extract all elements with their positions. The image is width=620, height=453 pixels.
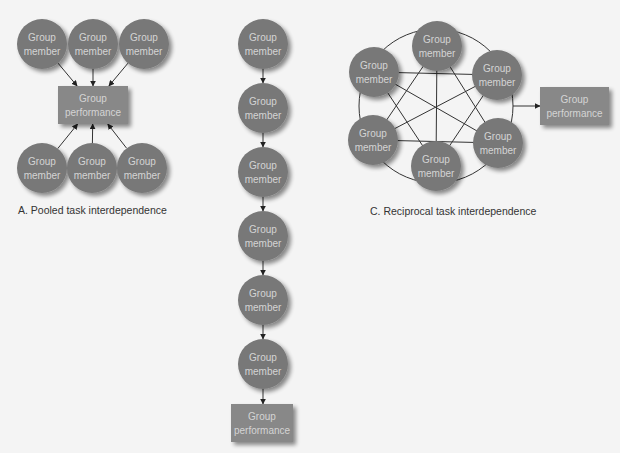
member-label-line2: member [245, 366, 282, 377]
pooled-group-performance-box: Groupperformance [58, 86, 128, 124]
member-label-line1: Group [28, 156, 56, 167]
member-label-line1: Group [249, 288, 277, 299]
member-label-line2: member [418, 168, 455, 179]
member-label-line1: Group [360, 60, 388, 71]
member-label-line1: Group [483, 63, 511, 74]
member-label-line2: member [419, 48, 456, 59]
member-label-line1: Group [28, 32, 56, 43]
svg-text:Group: Group [248, 411, 276, 422]
pooled-arrow [108, 124, 127, 148]
member-label-line2: member [245, 110, 282, 121]
reciprocal-member-node: Groupmember [348, 115, 398, 165]
reciprocal-member-node: Groupmember [349, 47, 399, 97]
pooled-member-node: Groupmember [17, 19, 67, 69]
reciprocal-member-node: Groupmember [412, 21, 462, 71]
pooled-caption: A. Pooled task interdependence [18, 204, 167, 216]
pooled-arrow [58, 63, 77, 86]
member-label-line2: member [245, 302, 282, 313]
member-label-line1: Group [249, 96, 277, 107]
member-label-line1: Group [249, 160, 277, 171]
member-label-line2: member [126, 46, 163, 57]
sequential-group-performance-box: Groupperformance [231, 404, 293, 442]
sequential-member-node: Groupmember [238, 83, 288, 133]
member-label-line1: Group [484, 131, 512, 142]
member-label-line1: Group [359, 128, 387, 139]
member-label-line2: member [355, 142, 392, 153]
reciprocal-member-node: Groupmember [411, 141, 461, 191]
pooled-member-node: Groupmember [117, 143, 167, 193]
sequential-member-node: Groupmember [238, 211, 288, 261]
pooled-member-node: Groupmember [67, 143, 117, 193]
sequential-member-node: Groupmember [238, 147, 288, 197]
sequential-member-node: Groupmember [238, 275, 288, 325]
svg-text:performance: performance [65, 107, 122, 118]
pooled-member-node: Groupmember [68, 19, 118, 69]
member-label-line1: Group [422, 154, 450, 165]
pooled-member-node: Groupmember [17, 143, 67, 193]
reciprocal-group-performance-box: Groupperformance [540, 87, 609, 125]
svg-text:Group: Group [79, 93, 107, 104]
member-label-line2: member [74, 170, 111, 181]
member-label-line1: Group [79, 32, 107, 43]
svg-text:Group: Group [561, 94, 589, 105]
diagram-nodes: GroupmemberGroupmemberGroupmemberGroupme… [17, 19, 609, 442]
member-label-line1: Group [249, 352, 277, 363]
member-label-line2: member [245, 238, 282, 249]
svg-text:performance: performance [234, 425, 291, 436]
member-label-line1: Group [130, 32, 158, 43]
reciprocal-member-node: Groupmember [472, 50, 522, 100]
member-label-line2: member [245, 174, 282, 185]
pooled-member-node: Groupmember [119, 19, 169, 69]
member-label-line2: member [356, 74, 393, 85]
member-label-line1: Group [249, 224, 277, 235]
member-label-line1: Group [78, 156, 106, 167]
task-interdependence-figure: GroupmemberGroupmemberGroupmemberGroupme… [0, 0, 620, 453]
pooled-arrow [58, 124, 78, 149]
member-label-line2: member [124, 170, 161, 181]
member-label-line1: Group [249, 32, 277, 43]
reciprocal-caption: C. Reciprocal task interdependence [370, 205, 536, 217]
svg-text:performance: performance [546, 108, 603, 119]
member-label-line1: Group [128, 156, 156, 167]
member-label-line2: member [75, 46, 112, 57]
member-label-line2: member [479, 77, 516, 88]
sequential-member-node: Groupmember [238, 19, 288, 69]
member-label-line2: member [24, 46, 61, 57]
member-label-line2: member [245, 46, 282, 57]
pooled-arrow [109, 63, 128, 86]
member-label-line2: member [480, 145, 517, 156]
sequential-member-node: Groupmember [238, 339, 288, 389]
reciprocal-member-node: Groupmember [473, 118, 523, 168]
member-label-line2: member [24, 170, 61, 181]
member-label-line1: Group [423, 34, 451, 45]
